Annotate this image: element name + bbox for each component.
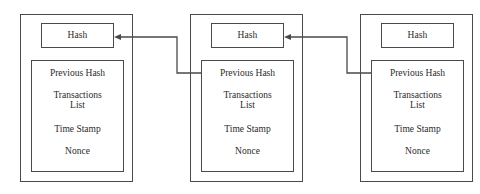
block-1-hash-label: Hash [68,31,88,41]
block-1-previous-hash-field: Previous Hash [32,68,123,79]
block-3-transactions-line1: Transactions [372,90,463,101]
block-3-body-box: Previous Hash Transactions List Time Sta… [371,60,464,172]
block-2-transactions-line1: Transactions [202,90,293,101]
block-1: Hash Previous Hash Transactions List Tim… [20,14,133,182]
block-2-body-box: Previous Hash Transactions List Time Sta… [201,60,294,172]
block-1-transactions-line1: Transactions [32,90,123,101]
block-3-hash-label: Hash [408,31,428,41]
block-2-time-stamp-field: Time Stamp [202,124,293,135]
block-1-nonce-field: Nonce [32,146,123,157]
blockchain-diagram: Hash Previous Hash Transactions List Tim… [0,0,480,194]
block-2-hash-label: Hash [238,31,258,41]
block-2-hash-box: Hash [211,23,284,48]
block-3: Hash Previous Hash Transactions List Tim… [360,14,473,182]
block-2-nonce-field: Nonce [202,146,293,157]
block-1-transactions-line2: List [32,100,123,111]
block-1-hash-box: Hash [41,23,114,48]
block-3-previous-hash-field: Previous Hash [372,68,463,79]
block-2: Hash Previous Hash Transactions List Tim… [190,14,303,182]
block-1-time-stamp-field: Time Stamp [32,124,123,135]
block-3-transactions-line2: List [372,100,463,111]
block-3-nonce-field: Nonce [372,146,463,157]
block-2-previous-hash-field: Previous Hash [202,68,293,79]
block-2-transactions-line2: List [202,100,293,111]
block-3-hash-box: Hash [381,23,454,48]
block-1-body-box: Previous Hash Transactions List Time Sta… [31,60,124,172]
block-3-time-stamp-field: Time Stamp [372,124,463,135]
